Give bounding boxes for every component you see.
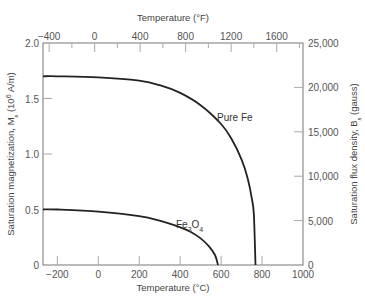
right-axis-title: Saturation flux density, Bs (gauss) (348, 83, 363, 224)
y2-tick-label: 20,000 (308, 82, 339, 93)
x2-tick-label: 1600 (265, 31, 288, 42)
y2-tick-label: 25,000 (308, 38, 339, 49)
left-axis-title: Saturation magnetization, Ms (106 A/m) (5, 72, 21, 235)
x-tick-label: 200 (131, 269, 148, 280)
bottom-axis-title: Temperature (°C) (137, 282, 210, 293)
x2-tick-label: −400 (38, 31, 61, 42)
y2-tick-label: 0 (308, 260, 314, 271)
x2-tick-label: 0 (92, 31, 98, 42)
top-axis-ticks: −400040080012001600 (38, 31, 299, 52)
pure-fe-label: Pure Fe (217, 112, 253, 123)
left-axis-ticks: 00.51.01.52.0 (25, 38, 52, 271)
right-axis-ticks: 05,00010,00015,00020,00025,000 (294, 38, 339, 271)
y2-tick-label: 15,000 (308, 127, 339, 138)
x-tick-label: 800 (254, 269, 271, 280)
y-tick-label: 2.0 (25, 38, 39, 49)
x-tick-label: −200 (46, 269, 69, 280)
y2-tick-label: 10,000 (308, 171, 339, 182)
x2-tick-label: 1200 (220, 31, 243, 42)
y-tick-label: 1.0 (25, 149, 39, 160)
y-tick-label: 1.5 (25, 94, 39, 105)
x2-tick-label: 800 (177, 31, 194, 42)
data-curves (43, 76, 256, 265)
y-tick-label: 0.5 (25, 205, 39, 216)
pure-fe-curve (43, 76, 256, 265)
x-tick-label: 600 (213, 269, 230, 280)
fe3o4-curve (43, 209, 218, 265)
x-tick-label: 0 (95, 269, 101, 280)
fe3o4-label: Fe3O4 (176, 219, 203, 233)
y2-tick-label: 5,000 (308, 216, 333, 227)
y-tick-label: 0 (33, 260, 39, 271)
magnetization-chart: −20002004006008001000 −40004008001200160… (0, 0, 365, 300)
top-axis-title: Temperature (°F) (137, 12, 209, 23)
x2-tick-label: 400 (132, 31, 149, 42)
bottom-axis-ticks: −20002004006008001000 (46, 256, 314, 280)
x-tick-label: 400 (172, 269, 189, 280)
